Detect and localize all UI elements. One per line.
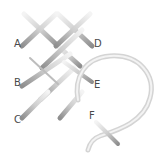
label-c: C <box>14 115 21 125</box>
thread-loop <box>77 56 151 150</box>
label-e: E <box>94 80 100 90</box>
stitch-diagram <box>0 0 165 161</box>
label-b: B <box>14 78 21 88</box>
label-f: F <box>89 111 95 121</box>
label-a: A <box>14 39 21 49</box>
lattice-bottom <box>22 92 82 118</box>
label-d: D <box>94 39 102 49</box>
